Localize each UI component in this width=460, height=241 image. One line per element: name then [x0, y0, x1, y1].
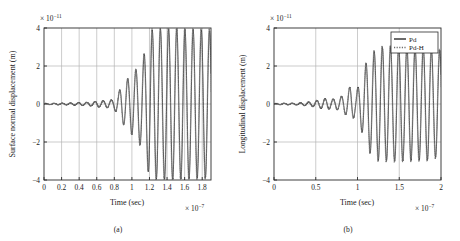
y-tick-label: 2 [266, 62, 270, 71]
chart-svg-b: × 10−11 00.511.52420−2−4 Pd Pd-H Time (s… [230, 0, 460, 241]
y-tick-label: 0 [36, 100, 40, 109]
y-tick-label: −4 [262, 176, 270, 185]
x-tick-label: 1 [130, 183, 134, 192]
x-tick-label: 0.4 [75, 183, 85, 192]
subcaption-b: (b) [344, 225, 353, 234]
x-tick-label: 0.5 [311, 183, 321, 192]
y-tick-label: 0 [266, 100, 270, 109]
chart-panel-a: × 10−11 00.20.40.60.811.21.41.61.8420−2−… [0, 0, 230, 241]
y-tick-label: 2 [36, 62, 40, 71]
x-tick-label: 1.4 [162, 183, 172, 192]
x-exponent-a: × 10−7 [185, 203, 204, 213]
x-tick-label: 0.6 [92, 183, 102, 192]
x-tick-label: 0 [272, 183, 276, 192]
x-tick-label: 1.2 [145, 183, 155, 192]
y-axis-title-a: Surface normal displacement (m) [8, 50, 17, 157]
subcaption-a: (a) [114, 225, 123, 234]
y-tick-label: 4 [266, 24, 270, 33]
x-exponent-b: × 10−7 [415, 203, 434, 213]
legend-label-pd: Pd [409, 36, 417, 44]
axis-ticks-a: 00.20.40.60.811.21.41.61.8420−2−4 [32, 24, 207, 192]
y-tick-label: 4 [36, 24, 40, 33]
y-axis-title-b: Longitudinal displacement (m) [238, 54, 247, 153]
x-tick-label: 0.8 [110, 183, 120, 192]
chart-panel-b: × 10−11 00.511.52420−2−4 Pd Pd-H Time (s… [230, 0, 460, 241]
y-exponent-a: × 10−11 [40, 13, 62, 23]
x-tick-label: 1.6 [180, 183, 190, 192]
x-tick-label: 0.2 [57, 183, 67, 192]
x-tick-label: 2 [439, 183, 443, 192]
legend-label-pdh: Pd-H [409, 44, 424, 52]
x-tick-label: 1.8 [198, 183, 208, 192]
y-tick-label: −2 [32, 138, 40, 147]
chart-svg-a: × 10−11 00.20.40.60.811.21.41.61.8420−2−… [0, 0, 230, 241]
figure-container: × 10−11 00.20.40.60.811.21.41.61.8420−2−… [0, 0, 460, 241]
x-axis-title-b: Time (sec) [340, 198, 374, 207]
x-tick-label: 1.5 [395, 183, 405, 192]
y-exponent-b: × 10−11 [270, 13, 292, 23]
legend-b: Pd Pd-H [391, 32, 438, 53]
y-tick-label: −2 [262, 138, 270, 147]
x-axis-title-a: Time (sec) [110, 198, 144, 207]
x-tick-label: 0 [42, 183, 46, 192]
x-tick-label: 1 [356, 183, 360, 192]
y-tick-label: −4 [32, 176, 40, 185]
